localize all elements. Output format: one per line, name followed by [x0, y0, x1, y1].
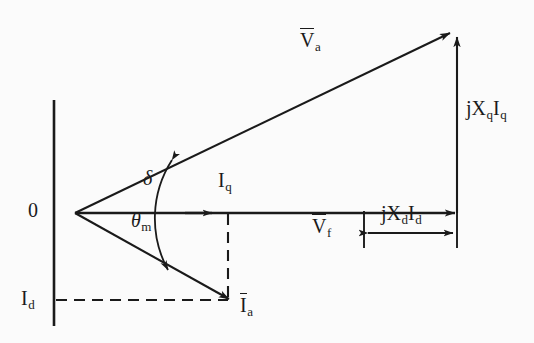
- theta-subscript: m: [141, 219, 151, 234]
- iq-symbol: I: [218, 169, 225, 191]
- jxqiq-i-symbol: I: [493, 97, 500, 119]
- label-jxqiq: jXqIq: [466, 98, 507, 121]
- origin-symbol: 0: [28, 199, 38, 221]
- label-jxdid: jXdId: [381, 203, 422, 226]
- vf-subscript: f: [327, 225, 331, 240]
- id-symbol: I: [21, 287, 28, 309]
- jxdid-i-subscript: d: [415, 212, 422, 227]
- ia-symbol: I: [240, 294, 247, 316]
- label-va: Va: [300, 28, 321, 53]
- vf-symbol: V: [312, 215, 326, 237]
- label-vf: Vf: [312, 214, 331, 239]
- label-id: Id: [21, 288, 35, 311]
- jxqiq-x-symbol: X: [472, 97, 486, 119]
- va-symbol: V: [300, 29, 314, 51]
- va-phasor-arrow: [75, 33, 450, 213]
- theta-symbol: θ: [131, 209, 141, 231]
- label-theta-m-angle: θm: [131, 210, 151, 233]
- jxqiq-i-subscript: q: [500, 107, 507, 122]
- angle-arc-delta-theta: [155, 160, 172, 270]
- ia-phasor-arrow: [75, 213, 229, 299]
- jxdid-i-symbol: I: [408, 202, 415, 224]
- label-origin: 0: [28, 200, 38, 220]
- ia-subscript: a: [247, 304, 253, 319]
- label-ia: Ia: [240, 293, 253, 318]
- delta-symbol: δ: [143, 167, 152, 189]
- iq-subscript: q: [225, 179, 232, 194]
- jxdid-x-symbol: X: [387, 202, 401, 224]
- phasor-diagram-canvas: [0, 0, 534, 343]
- id-subscript: d: [28, 297, 35, 312]
- phasor-diagram-figure: Va jXqIq Iq Vf jXdId δ θm 0 Id Ia: [0, 0, 534, 343]
- va-subscript: a: [315, 39, 321, 54]
- label-delta-angle: δ: [143, 168, 152, 188]
- label-iq: Iq: [218, 170, 232, 193]
